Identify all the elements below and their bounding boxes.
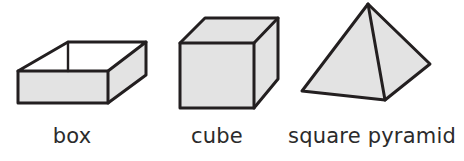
label-cube: cube — [158, 126, 276, 147]
shape-cube — [180, 18, 278, 108]
box-front-face — [18, 71, 108, 103]
cube-front-face — [180, 43, 254, 108]
geometric-solids-figure: box cube square pyramid — [0, 0, 464, 161]
label-square-pyramid: square pyramid — [288, 126, 456, 147]
label-box: box — [10, 126, 134, 147]
shape-box — [18, 42, 146, 103]
shape-square-pyramid — [302, 4, 430, 100]
